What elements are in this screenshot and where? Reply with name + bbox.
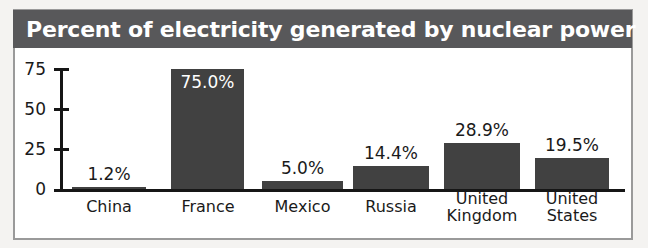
plot-area: 75 50 25 0 1.2% 75.0% 5.0% 14.4% 28.9% 1… — [0, 48, 648, 248]
x-category-united-kingdom: United Kingdom — [441, 190, 523, 224]
x-category-mexico: Mexico — [262, 198, 343, 215]
chart-title-bar: Percent of electricity generated by nucl… — [13, 10, 632, 48]
bar-russia — [353, 166, 429, 189]
y-axis-tick-75 — [54, 68, 69, 71]
y-tick-label-75: 75 — [12, 59, 46, 79]
bar-united-kingdom — [444, 143, 520, 189]
page-title: Percent of electricity generated by nucl… — [26, 17, 635, 42]
chart-page: Percent of electricity generated by nucl… — [0, 0, 648, 248]
y-axis-tick-25 — [54, 148, 69, 151]
bar-mexico — [262, 181, 343, 189]
bar-value-mexico: 5.0% — [262, 158, 343, 178]
x-category-united-states: United States — [534, 190, 610, 224]
bar-value-france: 75.0% — [168, 72, 247, 92]
y-tick-label-25: 25 — [12, 139, 46, 159]
y-axis-tick-50 — [54, 108, 69, 111]
x-category-france: France — [168, 198, 248, 215]
x-category-china: China — [69, 198, 149, 215]
cut-off-text-above — [150, 0, 480, 3]
bar-china — [72, 187, 146, 189]
bar-value-united-states: 19.5% — [533, 135, 611, 155]
bar-value-china: 1.2% — [72, 164, 146, 184]
y-tick-label-0: 0 — [12, 179, 46, 199]
y-tick-label-50: 50 — [12, 99, 46, 119]
bar-value-united-kingdom: 28.9% — [442, 120, 522, 140]
x-category-russia: Russia — [351, 198, 431, 215]
bar-value-russia: 14.4% — [351, 143, 431, 163]
bar-united-states — [535, 158, 609, 189]
y-axis-spine — [60, 69, 63, 190]
